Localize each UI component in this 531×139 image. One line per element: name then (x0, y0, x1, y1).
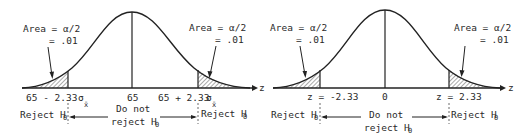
reject-right-sub: 0 (494, 114, 498, 122)
accept-label-1: Do not (116, 103, 150, 114)
axis-label: z (259, 82, 265, 93)
arrow-right-icon (442, 115, 448, 119)
tick-left-sigma-sub: x̄ (84, 101, 88, 109)
reject-left-sub: 0 (63, 114, 67, 122)
left-tail-shade (280, 71, 320, 88)
left-area-label-2: = .01 (296, 34, 325, 45)
arrow-left-icon (321, 115, 327, 119)
reject-right-label: Reject H (451, 109, 497, 120)
accept-label-2: reject H (364, 122, 410, 133)
arrow-right-icon (191, 115, 197, 119)
left-pointer (48, 47, 52, 76)
tick-left: 65 - 2.33 (26, 92, 77, 103)
right-pointer-arrow-icon (460, 70, 465, 77)
tick-right: 65 + 2.33 (158, 92, 209, 103)
left-area-label-2: = .01 (49, 35, 78, 46)
right-pointer (210, 46, 216, 75)
left-pointer-arrow-icon (50, 72, 55, 80)
right-area-label-2: = .01 (480, 34, 509, 45)
right-area-label-2: = .01 (215, 34, 244, 45)
tick-center: 65 (127, 92, 138, 103)
axis-arrow-icon (500, 85, 506, 91)
right-pointer (462, 46, 465, 74)
tick-left: z = -2.33 (307, 91, 358, 102)
tick-right: z = 2.33 (436, 91, 482, 102)
left-pointer (300, 46, 305, 75)
left-area-label-1: Area = α/2 (23, 23, 80, 34)
right-area-label-1: Area = α/2 (454, 22, 511, 33)
right-area-label-1: Area = α/2 (189, 22, 246, 33)
reject-right-label: Reject H (201, 108, 247, 119)
hypothesis-test-diagrams: z Area = α/2 = .01 Area = α/2 = .01 65 -… (0, 0, 531, 139)
accept-label-2: reject H (111, 116, 157, 127)
axis-label: z (508, 82, 514, 93)
reject-right-sub: 0 (243, 113, 247, 121)
axis-arrow-icon (252, 85, 258, 91)
panel-sample-mean: z Area = α/2 = .01 Area = α/2 = .01 65 -… (20, 12, 265, 129)
accept-label-sub: 0 (155, 121, 159, 129)
accept-label-sub: 0 (408, 127, 412, 135)
left-pointer-arrow-icon (303, 71, 308, 78)
arrow-left-icon (69, 115, 75, 119)
panel-z-scale: z Area = α/2 = .01 Area = α/2 = .01 z = … (270, 10, 514, 135)
reject-left-label: Reject H (20, 109, 66, 120)
accept-label-1: Do not (369, 109, 403, 120)
tick-center: 0 (382, 91, 388, 102)
reject-left-label: Reject H (271, 109, 317, 120)
left-area-label-1: Area = α/2 (270, 22, 327, 33)
reject-left-sub: 0 (314, 114, 318, 122)
